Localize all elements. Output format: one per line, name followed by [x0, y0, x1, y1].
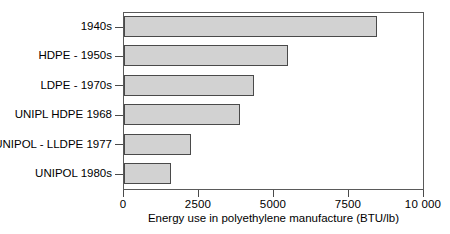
bar — [124, 134, 191, 155]
x-axis-tick — [273, 190, 274, 197]
y-axis-tick — [115, 144, 123, 145]
bar — [124, 45, 288, 66]
bar — [124, 163, 171, 184]
y-axis-tick — [115, 27, 123, 28]
y-axis-label: UNIPOL - LLDPE 1977 — [0, 134, 112, 155]
x-axis-tick-label: 7500 — [335, 198, 361, 211]
y-axis-tick — [115, 174, 123, 175]
bar-chart: 1940sHDPE - 1950sLDPE - 1970sUNIPL HDPE … — [0, 0, 450, 234]
x-axis-tick-label: 0 — [120, 198, 127, 211]
y-axis-tick — [115, 85, 123, 86]
y-axis-label: 1940s — [81, 16, 112, 37]
y-axis-tick — [115, 115, 123, 116]
x-axis-tick — [423, 190, 424, 197]
bars-layer — [124, 13, 424, 189]
bar — [124, 75, 254, 96]
x-axis-tick-label: 5000 — [260, 198, 286, 211]
y-axis-label: HDPE - 1950s — [38, 45, 112, 66]
y-axis-label: UNIPL HDPE 1968 — [15, 104, 112, 125]
x-axis-tick-label: 2500 — [185, 198, 211, 211]
y-axis-label: LDPE - 1970s — [40, 75, 112, 96]
y-axis-label: UNIPOL 1980s — [35, 163, 112, 184]
bar — [124, 104, 240, 125]
x-axis-tick — [123, 190, 124, 197]
x-axis-tick-label: 10 000 — [405, 198, 441, 211]
y-axis-category-labels: 1940sHDPE - 1950sLDPE - 1970sUNIPL HDPE … — [0, 12, 123, 190]
x-axis-ticks — [123, 190, 425, 198]
y-axis-tick — [115, 56, 123, 57]
x-axis-title: Energy use in polyethylene manufacture (… — [123, 212, 424, 224]
x-axis-tick — [198, 190, 199, 197]
x-axis-tick — [348, 190, 349, 197]
bar — [124, 16, 377, 37]
